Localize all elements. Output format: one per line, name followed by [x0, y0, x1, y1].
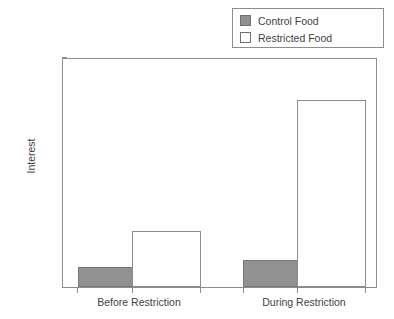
x-tick-mark — [200, 288, 201, 293]
y-axis-label: Interest — [25, 111, 37, 201]
chart-legend: Control Food Restricted Food — [232, 8, 384, 48]
bar-chart: Control Food Restricted Food Interest 3.… — [0, 0, 394, 319]
x-category-label-before-restriction: Before Restriction — [59, 295, 219, 309]
legend-label-restricted-food: Restricted Food — [258, 32, 332, 44]
bar-during-restricted-food — [297, 100, 366, 287]
x-tick-mark — [132, 288, 133, 293]
legend-swatch-control-food-icon — [240, 15, 251, 26]
x-tick-mark — [297, 288, 298, 293]
x-category-label-during-restriction: During Restriction — [224, 295, 384, 309]
x-tick-mark — [243, 288, 244, 293]
x-tick-mark — [77, 288, 78, 293]
legend-label-control-food: Control Food — [258, 15, 319, 27]
bar-during-control-food — [243, 260, 298, 287]
x-tick-mark — [365, 288, 366, 293]
legend-item-control-food: Control Food — [240, 12, 383, 29]
bar-before-restricted-food — [132, 231, 201, 287]
legend-item-restricted-food: Restricted Food — [240, 29, 383, 46]
plot-area — [62, 58, 377, 288]
bar-before-control-food — [78, 267, 133, 287]
legend-swatch-restricted-food-icon — [240, 32, 251, 43]
